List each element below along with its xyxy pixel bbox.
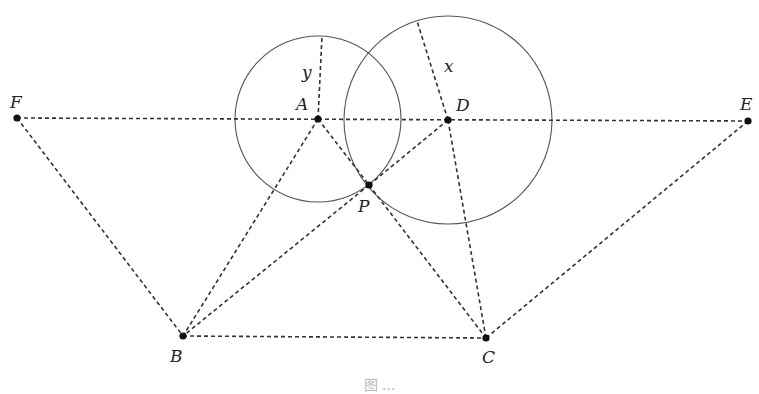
points-layer: FADEPBC xyxy=(9,92,753,367)
segment-DC xyxy=(448,120,486,338)
point-label-C: C xyxy=(482,347,495,367)
point-label-P: P xyxy=(357,196,370,216)
segment-PC xyxy=(369,185,486,338)
point-D xyxy=(444,116,451,123)
segment-PB xyxy=(183,185,369,336)
point-C xyxy=(482,334,489,341)
segment-FE xyxy=(17,118,748,121)
segment-AB xyxy=(183,119,318,336)
radius-y xyxy=(318,36,322,119)
segment-BC xyxy=(183,336,486,338)
point-A xyxy=(314,115,321,122)
segment-AP xyxy=(318,119,369,185)
segment-FB xyxy=(17,118,183,336)
figure-caption: 图 ... xyxy=(0,374,759,394)
point-E xyxy=(744,117,751,124)
point-label-D: D xyxy=(455,95,470,115)
point-label-B: B xyxy=(169,346,183,366)
segment-EC xyxy=(486,121,748,338)
point-label-E: E xyxy=(739,94,753,114)
point-label-A: A xyxy=(294,94,308,114)
circles-layer xyxy=(235,16,552,224)
segments-layer xyxy=(17,118,748,338)
radius-label-x: x xyxy=(444,56,454,76)
point-label-F: F xyxy=(9,92,23,112)
segment-DP xyxy=(369,120,448,185)
point-F xyxy=(13,114,20,121)
radius-label-y: y xyxy=(301,62,312,82)
point-P xyxy=(365,181,372,188)
point-B xyxy=(179,332,186,339)
